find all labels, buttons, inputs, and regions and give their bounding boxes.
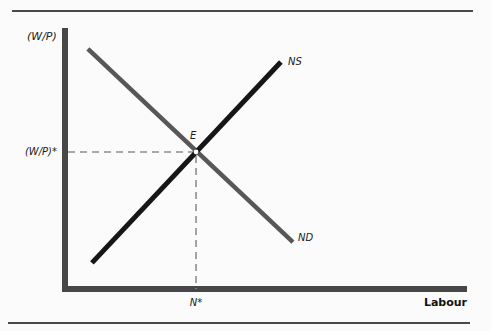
labour-market-diagram: (W/P) (W/P)* NS ND E N* Labour xyxy=(0,0,491,331)
labour-demand-curve-label: ND xyxy=(298,233,313,243)
labour-supply-curve-label: NS xyxy=(288,57,302,67)
equilibrium-point-label: E xyxy=(190,131,196,141)
y-axis-label: (W/P) xyxy=(27,31,57,42)
x-axis-label: Labour xyxy=(407,297,467,308)
plot-lines xyxy=(0,0,491,331)
equilibrium-labour-label: N* xyxy=(182,298,210,308)
equilibrium-wage-label: (W/P)* xyxy=(14,147,57,157)
equilibrium-point-marker xyxy=(194,150,199,155)
labour-supply-line xyxy=(92,62,281,263)
bottom-rule xyxy=(8,322,470,324)
labour-demand-line xyxy=(88,49,293,242)
